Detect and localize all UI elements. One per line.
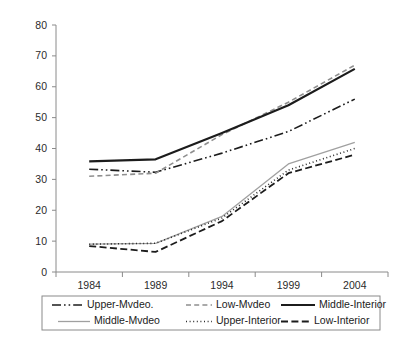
y-tick-label: 30 — [35, 173, 47, 185]
legend-label-low-interior: Low-Interior — [314, 314, 370, 326]
legend-label-upper-interior: Upper-Interior — [216, 314, 281, 326]
y-tick-label: 10 — [35, 235, 47, 247]
y-tick-label: 0 — [41, 266, 47, 278]
x-tick-labels: 19841989199419992004 — [78, 279, 367, 291]
legend-label-upper-mvdeo: Upper-Mvdeo. — [87, 298, 154, 310]
y-axis-group: 01020304050607080 — [35, 19, 56, 278]
y-tick-label: 20 — [35, 204, 47, 216]
legend-label-middle-interior: Middle-Interior — [319, 298, 387, 310]
y-tick-label: 60 — [35, 80, 47, 92]
series-line-upper-mvdeo — [89, 99, 355, 172]
y-tick-label: 80 — [35, 19, 47, 31]
x-tick-label: 1994 — [210, 279, 234, 291]
y-tick-label: 50 — [35, 111, 47, 123]
legend-label-low-mvdeo: Low-Mvdeo — [216, 298, 270, 310]
series-line-middle-mvdeo — [89, 142, 355, 244]
chart-canvas: 01020304050607080 19841989199419992004 U… — [0, 0, 399, 354]
series-lines — [89, 65, 355, 252]
legend-label-middle-mvdeo: Middle-Mvdeo — [94, 314, 160, 326]
x-tick-label: 1999 — [277, 279, 301, 291]
x-tick-label: 2004 — [343, 279, 367, 291]
series-line-upper-interior — [89, 149, 355, 245]
y-tick-labels: 01020304050607080 — [35, 19, 47, 278]
y-tick-label: 40 — [35, 142, 47, 154]
series-line-low-interior — [89, 155, 355, 252]
series-line-middle-interior — [89, 69, 355, 162]
x-axis-group: 19841989199419992004 — [56, 272, 388, 291]
x-tick-label: 1984 — [78, 279, 102, 291]
legend: Upper-Mvdeo.Low-MvdeoMiddle-InteriorMidd… — [42, 296, 387, 330]
x-tick-label: 1989 — [144, 279, 168, 291]
y-tick-marks — [52, 25, 56, 272]
y-tick-label: 70 — [35, 49, 47, 61]
line-chart: 01020304050607080 19841989199419992004 U… — [0, 0, 399, 354]
x-tick-marks — [56, 272, 388, 277]
legend-entries: Upper-Mvdeo.Low-MvdeoMiddle-InteriorMidd… — [52, 298, 387, 327]
